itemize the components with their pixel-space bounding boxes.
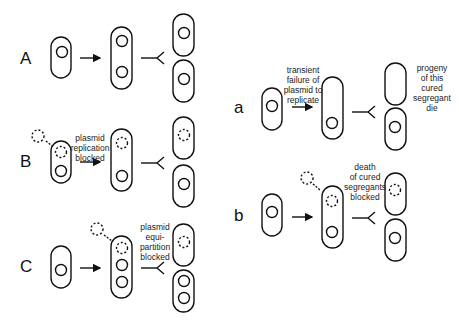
cell <box>385 108 406 150</box>
caption-C: plasmidequi-partitionblocked <box>135 222 175 262</box>
cell <box>173 14 194 56</box>
panel-label-b: b <box>234 206 243 226</box>
panel-label-B: B <box>20 152 31 172</box>
caption-b: deathof curedsegregantsblocked <box>342 162 388 202</box>
cell <box>385 173 406 215</box>
cell <box>111 236 132 298</box>
plasmid-segregation-diagram <box>0 0 459 324</box>
cell <box>173 165 194 207</box>
cell <box>173 270 194 312</box>
cell <box>51 246 71 288</box>
note-a: progenyof thiscuredsegregantdie <box>410 63 454 113</box>
cell <box>173 117 194 159</box>
cell <box>322 77 343 139</box>
caption-a: transientfailure ofplasmid toreplicate <box>282 65 324 105</box>
cell <box>385 63 406 105</box>
cell <box>173 60 194 102</box>
cell <box>111 27 132 89</box>
cell <box>385 219 406 261</box>
cell <box>173 224 194 266</box>
caption-B: plasmidreplicationblocked <box>70 133 110 163</box>
cell <box>262 88 282 130</box>
cell <box>262 194 282 236</box>
panel-label-A: A <box>20 49 31 69</box>
panel-label-a: a <box>234 98 243 118</box>
panel-label-C: C <box>20 257 32 277</box>
